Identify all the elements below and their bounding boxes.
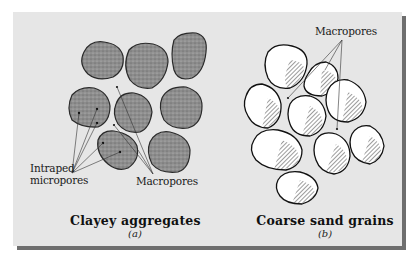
label-intraped-line1: Intraped: [30, 163, 74, 174]
sand-grain-5: [326, 80, 366, 122]
sand-grain-4: [288, 96, 326, 136]
caption-coarse-sand-grains: Coarse sand grains: [255, 213, 395, 228]
sublabel-a: (a): [70, 228, 200, 239]
sand-grain-8: [350, 126, 384, 164]
aggregate-2: [126, 43, 168, 88]
label-intraped-line2: micropores: [30, 175, 88, 186]
sand-grain-6: [251, 130, 302, 170]
aggregate-4: [69, 88, 110, 127]
sand-grain-7: [314, 133, 350, 174]
sublabel-b: (b): [255, 228, 395, 239]
sand-grain-1: [265, 45, 307, 88]
caption-clayey-aggregates: Clayey aggregates: [70, 213, 200, 228]
label-macropores-b: Macropores: [315, 26, 377, 37]
aggregate-7: [98, 131, 138, 169]
sand-grain-9: [276, 172, 318, 204]
aggregate-1: [82, 42, 124, 79]
label-macropores-a: Macropores: [136, 176, 198, 187]
aggregate-8: [148, 132, 190, 173]
aggregate-3: [172, 33, 206, 79]
aggregate-6: [160, 87, 202, 128]
sand-grains-group: [244, 45, 384, 204]
sand-grain-3: [244, 84, 281, 128]
clay-aggregates-group: [69, 33, 206, 172]
